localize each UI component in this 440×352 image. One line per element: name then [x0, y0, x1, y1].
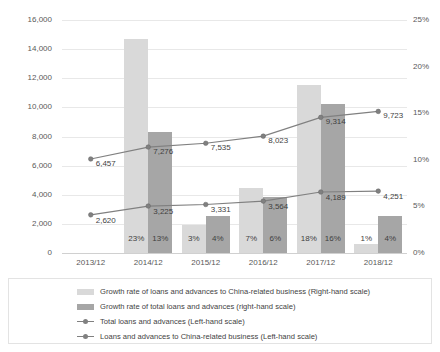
- legend-item-2[interactable]: Growth rate of total loans and advances …: [9, 299, 431, 314]
- legend-line-marker-icon: [77, 318, 94, 325]
- data-point-2014-12-line2: [146, 204, 151, 209]
- x-axis-tick-2018-12: 2018/12: [349, 259, 407, 267]
- y-axis-left-tick: 0: [4, 249, 52, 257]
- point-label-2017-12-line2: 4,189: [326, 194, 346, 202]
- x-axis-tick-2016-12: 2016/12: [234, 259, 292, 267]
- data-point-2016-12-line2: [261, 199, 266, 204]
- data-point-2018-12-line1: [376, 109, 381, 114]
- x-axis-tick-2014-12: 2014/12: [119, 259, 177, 267]
- data-point-2017-12-line2: [318, 190, 323, 195]
- y-axis-right-tick: 10%: [413, 156, 440, 164]
- point-label-2014-12-line2: 3,225: [153, 208, 173, 216]
- data-point-2018-12-line2: [376, 189, 381, 194]
- point-label-2017-12-line1: 9,314: [326, 118, 346, 126]
- legend-label: Total loans and advances (Left-hand scal…: [100, 318, 245, 326]
- legend-item-4[interactable]: Loans and advances to China-related busi…: [9, 329, 431, 344]
- y-axis-right-tick: 20%: [413, 63, 440, 71]
- y-axis-right-tick: 0%: [413, 249, 440, 257]
- data-point-2014-12-line1: [146, 145, 151, 150]
- legend-label: Growth rate of total loans and advances …: [100, 303, 295, 311]
- y-axis-left-tick: 16,000: [4, 16, 52, 24]
- y-axis-right-tick: 25%: [413, 16, 440, 24]
- point-label-2013-12-line1: 6,457: [96, 160, 116, 168]
- legend-swatch-icon: [77, 304, 94, 310]
- point-label-2016-12-line2: 3,564: [268, 203, 288, 211]
- y-axis-left-tick: 10,000: [4, 103, 52, 111]
- point-label-2015-12-line2: 3,331: [211, 206, 231, 214]
- y-axis-left-tick: 8,000: [4, 133, 52, 141]
- plot-area: 23%3%7%18%1%13%4%6%16%4% 6,4577,2767,535…: [62, 20, 407, 253]
- y-axis-left-tick: 2,000: [4, 220, 52, 228]
- point-label-2014-12-line1: 7,276: [153, 148, 173, 156]
- x-axis-tick-2017-12: 2017/12: [292, 259, 350, 267]
- data-point-2015-12-line1: [203, 141, 208, 146]
- point-label-2016-12-line1: 8,023: [268, 137, 288, 145]
- legend-item-1[interactable]: Growth rate of loans and advances to Chi…: [9, 284, 431, 299]
- point-label-2013-12-line2: 2,620: [96, 217, 116, 225]
- x-axis-tick-2013-12: 2013/12: [62, 259, 120, 267]
- data-point-2013-12-line2: [88, 213, 93, 218]
- data-point-2015-12-line2: [203, 202, 208, 207]
- data-point-2013-12-line1: [88, 157, 93, 162]
- y-axis-left-tick: 14,000: [4, 45, 52, 53]
- legend-label: Growth rate of loans and advances to Chi…: [100, 288, 370, 296]
- axis-baseline: [62, 253, 407, 254]
- data-point-2017-12-line1: [318, 115, 323, 120]
- legend-line-marker-icon: [77, 333, 94, 340]
- x-axis-tick-2015-12: 2015/12: [177, 259, 235, 267]
- point-label-2018-12-line2: 4,251: [383, 193, 403, 201]
- chart-container: 02,0004,0006,0008,00010,00012,00014,0001…: [0, 0, 440, 352]
- legend-item-3[interactable]: Total loans and advances (Left-hand scal…: [9, 314, 431, 329]
- y-axis-right-tick: 5%: [413, 202, 440, 210]
- y-axis-left-tick: 12,000: [4, 74, 52, 82]
- y-axis-left-tick: 6,000: [4, 162, 52, 170]
- data-point-2016-12-line1: [261, 134, 266, 139]
- point-label-2015-12-line1: 7,535: [211, 144, 231, 152]
- chart-legend: Growth rate of loans and advances to Chi…: [8, 278, 432, 344]
- point-label-2018-12-line1: 9,723: [383, 112, 403, 120]
- y-axis-right-tick: 15%: [413, 109, 440, 117]
- legend-swatch-icon: [77, 289, 94, 295]
- legend-label: Loans and advances to China-related busi…: [100, 333, 317, 341]
- y-axis-left-tick: 4,000: [4, 191, 52, 199]
